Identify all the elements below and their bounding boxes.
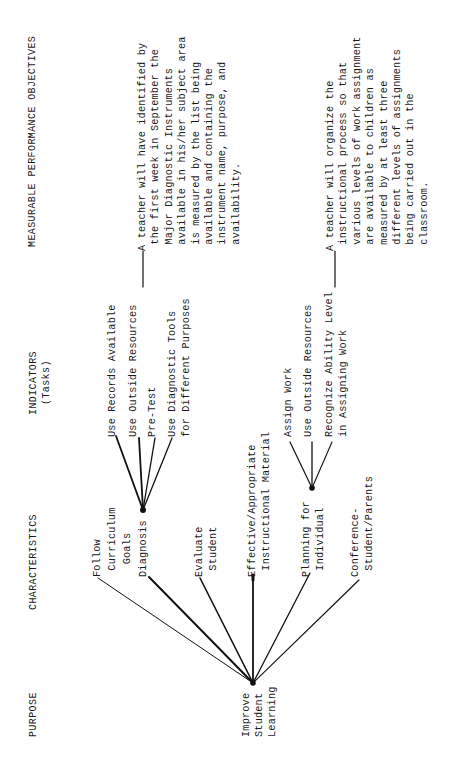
characteristic-effective-material: Effective/Appropriate Instructional Mate… — [246, 432, 274, 577]
header-indicators: INDICATORS — [29, 351, 40, 415]
header-objectives: MEASURABLE PERFORMANCE OBJECTIVES — [28, 36, 39, 247]
indicator-use-records-available: Use Records Available — [108, 304, 119, 437]
header-purpose: PURPOSE — [29, 692, 40, 737]
header-characteristics: CHARACTERISTICS — [29, 514, 40, 610]
indicator-pre-test: Pre-Test — [148, 386, 159, 437]
indicator-recognize-ability-level: Recognize Ability Level in Assigning Wor… — [323, 292, 351, 437]
indicator-use-outside-resources-2: Use Outside Resources — [304, 304, 315, 437]
indicator-assign-work: Assign Work — [284, 368, 295, 437]
objective-planning: A teacher will organize the instructiona… — [324, 36, 431, 251]
purpose-improve-student-learning: Improve Student Learning — [240, 686, 279, 737]
characteristic-evaluate-student: Evaluate Student — [193, 526, 221, 577]
characteristic-conference: Conference- Student/Parents — [349, 476, 377, 577]
characteristic-diagnosis: Diagnosis — [139, 520, 150, 577]
header-indicators-sub: (Tasks) — [42, 360, 53, 405]
indicator-use-diagnostic-tools: Use Diagnostic Tools for Different Purpo… — [166, 298, 194, 437]
characteristic-planning-for-individual: Planning for Individual — [300, 501, 328, 577]
characteristic-follow-curriculum-goals: Follow Curriculum Goals — [90, 508, 135, 577]
objective-diagnosis: A teacher will have identified by the fi… — [136, 36, 243, 251]
indicator-use-outside-resources-1: Use Outside Resources — [129, 304, 140, 437]
